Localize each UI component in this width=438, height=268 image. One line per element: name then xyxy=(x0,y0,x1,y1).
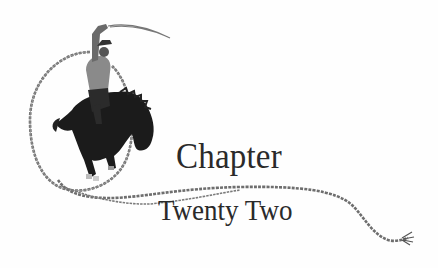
chapter-heading-graphic: Chapter Twenty Two xyxy=(0,0,438,268)
chapter-number: Twenty Two xyxy=(158,196,292,225)
chapter-label: Chapter xyxy=(176,139,282,175)
cowboy-lasso-illustration xyxy=(0,0,438,268)
whip-line-icon xyxy=(108,25,170,38)
